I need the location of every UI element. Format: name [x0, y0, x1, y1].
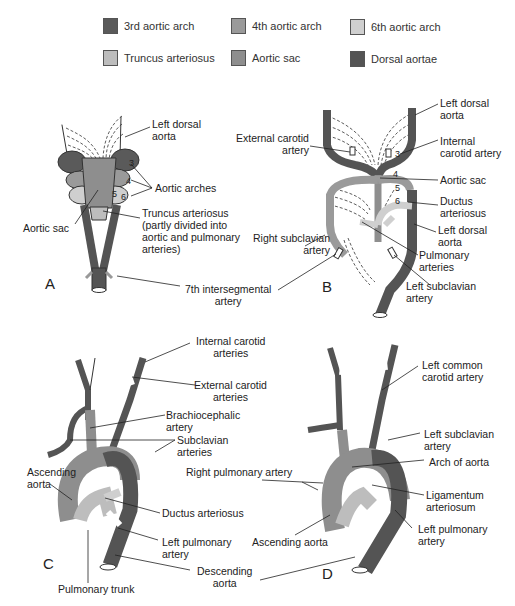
label-d-right-pulmonary: Right pulmonary artery — [186, 466, 292, 478]
panel-letter-d: D — [322, 565, 333, 582]
label-c-external-carotid: External carotid arteries — [194, 379, 267, 403]
panel-letter-c: C — [43, 555, 54, 572]
label-b-ductus: Ductus arteriosus — [440, 195, 486, 219]
label-a-truncus: Truncus arteriosus (partly divided into … — [142, 207, 240, 255]
label-d-ascending-aorta: Ascending aorta — [252, 536, 328, 548]
label-b-external-carotid: External carotid artery — [236, 132, 309, 156]
label-b-pulmonary-arteries: Pulmonary arteries — [419, 249, 469, 273]
arch-number-3: 3 — [395, 149, 400, 159]
label-d-left-common-carotid: Left common carotid artery — [422, 359, 483, 383]
label-c-subclavian: Subclavian arteries — [177, 434, 228, 458]
label-d-ligamentum: Ligamentum arteriosum — [426, 489, 484, 513]
label-b-left-dorsal-aorta-top: Left dorsal aorta — [440, 97, 489, 121]
arch-number-6: 6 — [395, 196, 400, 206]
panel-letter-b: B — [322, 278, 332, 295]
label-c-descending-aorta: Descending aorta — [197, 565, 252, 589]
label-c-ascending-aorta: Ascending aorta — [27, 466, 76, 490]
label-b-left-dorsal-aorta: Left dorsal aorta — [438, 224, 487, 248]
arch-number-5: 5 — [395, 183, 400, 193]
panel-letter-a: A — [45, 275, 55, 292]
label-d-left-pulmonary: Left pulmonary artery — [418, 523, 487, 547]
label-d-arch-of-aorta: Arch of aorta — [429, 456, 489, 468]
label-c-internal-carotid: Internal carotid arteries — [196, 335, 265, 359]
label-a-aortic-sac: Aortic sac — [23, 222, 69, 234]
label-c-ductus: Ductus arteriosus — [162, 507, 244, 519]
panel-a: 3 4 5 6 — [58, 116, 180, 293]
arch-number-4: 4 — [393, 169, 398, 179]
label-b-internal-carotid: Internal carotid artery — [440, 135, 501, 159]
arch-number-6: 6 — [121, 192, 126, 202]
label-c-pulmonary-trunk: Pulmonary trunk — [58, 583, 134, 595]
label-c-brachiocephalic: Brachiocephalic artery — [166, 409, 240, 433]
label-b-aortic-sac: Aortic sac — [440, 174, 486, 186]
label-a-aortic-arches: Aortic arches — [155, 182, 216, 194]
arch-number-4: 4 — [126, 176, 131, 186]
label-a-left-dorsal-aorta: Left dorsal aorta — [152, 118, 201, 142]
label-b-right-subclavian: Right subclavian artery — [253, 232, 330, 256]
label-c-left-pulmonary: Left pulmonary artery — [162, 536, 231, 560]
arch-number-5: 5 — [112, 189, 117, 199]
label-d-left-subclavian: Left subclavian artery — [424, 428, 494, 452]
label-b-left-subclavian: Left subclavian artery — [406, 280, 476, 304]
label-a-7th-intersegmental: 7th intersegmental artery — [185, 283, 271, 307]
